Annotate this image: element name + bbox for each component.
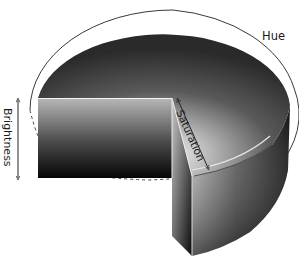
front-cut-face (38, 98, 172, 178)
hue-label: Hue (262, 29, 285, 43)
hsb-cylinder-diagram: Brightness Saturation Hue (0, 0, 299, 261)
brightness-label: Brightness (1, 108, 14, 167)
